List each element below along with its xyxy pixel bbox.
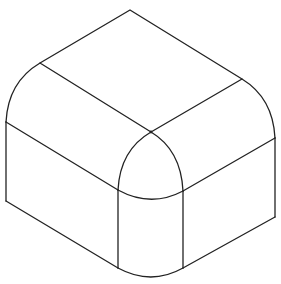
corner-dome-base (118, 190, 183, 199)
corner-dome-right (151, 132, 183, 191)
left-rounded-edge-lower (6, 122, 118, 190)
corner-dome-left (118, 132, 151, 190)
left-face-bottom-edge (6, 201, 118, 268)
left-rounded-edge-top (6, 63, 40, 122)
right-rounded-edge-top (242, 79, 275, 138)
box-drawing (0, 0, 281, 284)
top-vertex-dot (150, 131, 153, 134)
right-face-bottom-edge (183, 217, 275, 268)
top-face (40, 10, 242, 132)
isometric-rounded-box-figure (0, 0, 281, 284)
right-rounded-edge-lower (183, 138, 275, 191)
bottom-rounded-corner (118, 268, 183, 277)
